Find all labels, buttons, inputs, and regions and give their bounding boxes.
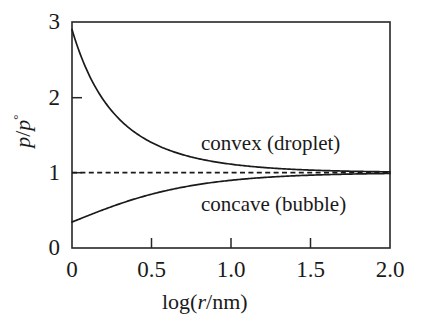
x-tick-label-0: 0	[37, 258, 107, 281]
x-tick-marks	[152, 238, 311, 248]
x-tick-label-0_5: 0.5	[117, 258, 187, 281]
y-tick-label-3: 3	[30, 10, 60, 33]
y-axis-title-denominator: p	[10, 120, 35, 131]
y-axis-title-degree: °	[10, 115, 25, 120]
x-tick-label-1_5: 1.5	[276, 258, 346, 281]
x-axis-title-pre: log(	[162, 289, 197, 314]
y-tick-marks	[72, 98, 82, 173]
y-axis-title: p/p°	[10, 86, 36, 176]
x-tick-label-2_0: 2.0	[355, 258, 421, 281]
x-axis-title-post: /nm)	[206, 289, 248, 314]
annotation-convex-droplet: convex (droplet)	[201, 133, 340, 154]
x-tick-label-1_0: 1.0	[196, 258, 266, 281]
y-axis-title-slash: /	[10, 131, 35, 137]
y-tick-label-0: 0	[30, 236, 60, 259]
x-axis-title: log(r/nm)	[162, 291, 248, 313]
figure-canvas: 3 2 1 0 0 0.5 1.0 1.5 2.0 log(r/nm) p/p°…	[0, 0, 421, 324]
y-axis-title-numerator: p	[10, 137, 35, 148]
x-axis-title-variable: r	[197, 289, 206, 314]
annotation-concave-bubble: concave (bubble)	[201, 194, 346, 215]
